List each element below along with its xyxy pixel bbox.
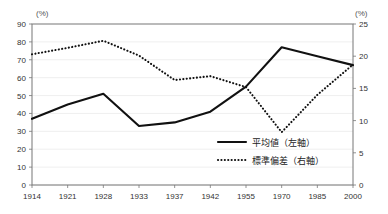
right-axis-tick-label: 5 xyxy=(359,149,364,158)
x-axis-tick-label: 1970 xyxy=(273,192,291,201)
left-axis-tick-label: 10 xyxy=(17,163,26,172)
x-axis-tick-label: 1985 xyxy=(308,192,326,201)
left-axis-tick-label: 30 xyxy=(17,127,26,136)
x-axis-tick-label: 1937 xyxy=(166,192,184,201)
x-axis-tick-label: 1955 xyxy=(237,192,255,201)
chart-container: 01020304050607080900510152025(%)(%)19141… xyxy=(0,0,388,214)
x-axis-tick-label: 1933 xyxy=(130,192,148,201)
line-chart: 01020304050607080900510152025(%)(%)19141… xyxy=(0,0,388,214)
left-axis-tick-label: 70 xyxy=(17,56,26,65)
left-axis-tick-label: 50 xyxy=(17,92,26,101)
right-axis-tick-label: 15 xyxy=(359,84,368,93)
right-axis-unit-label: (%) xyxy=(355,9,368,18)
right-axis-tick-label: 25 xyxy=(359,20,368,29)
legend-label-stddev: 標準偏差（右軸） xyxy=(252,155,324,166)
right-axis-tick-label: 10 xyxy=(359,117,368,126)
left-axis-tick-label: 60 xyxy=(17,74,26,83)
series-line-mean xyxy=(32,47,353,126)
left-axis-tick-label: 0 xyxy=(22,181,27,190)
left-axis-unit-label: (%) xyxy=(36,9,49,18)
x-axis-tick-label: 1921 xyxy=(59,192,77,201)
left-axis-tick-label: 80 xyxy=(17,38,26,47)
left-axis-tick-label: 20 xyxy=(17,145,26,154)
x-axis-tick-label: 1942 xyxy=(201,192,219,201)
x-axis-tick-label: 2000 xyxy=(344,192,362,201)
x-axis-tick-label: 1928 xyxy=(94,192,112,201)
left-axis-tick-label: 90 xyxy=(17,20,26,29)
series-line-stddev xyxy=(32,41,353,132)
left-axis-tick-label: 40 xyxy=(17,109,26,118)
right-axis-tick-label: 0 xyxy=(359,181,364,190)
x-axis-tick-label: 1914 xyxy=(23,192,41,201)
legend-label-mean: 平均値（左軸） xyxy=(252,137,315,148)
right-axis-tick-label: 20 xyxy=(359,52,368,61)
